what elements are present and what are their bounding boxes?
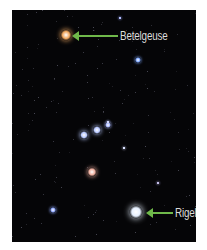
betelgeuse-label: Betelgeuse	[120, 30, 168, 42]
star-mid-star	[107, 121, 110, 124]
star-meissa	[119, 17, 122, 20]
star-alnitak	[80, 131, 88, 139]
star-orion-nebula	[88, 168, 97, 177]
betelgeuse-arrow-icon	[78, 35, 118, 37]
star-right-star	[157, 182, 160, 185]
star-alnilam	[93, 126, 101, 134]
star-saiph-side-star	[50, 207, 56, 213]
star-rigel	[130, 206, 143, 219]
rigel-arrow-icon	[152, 212, 173, 214]
star-bellatrix	[135, 57, 141, 63]
orion-star-field: Betelgeuse Rigel	[12, 10, 196, 242]
rigel-label: Rigel	[175, 207, 196, 219]
star-sword-star	[123, 147, 126, 150]
star-betelgeuse	[61, 30, 72, 41]
